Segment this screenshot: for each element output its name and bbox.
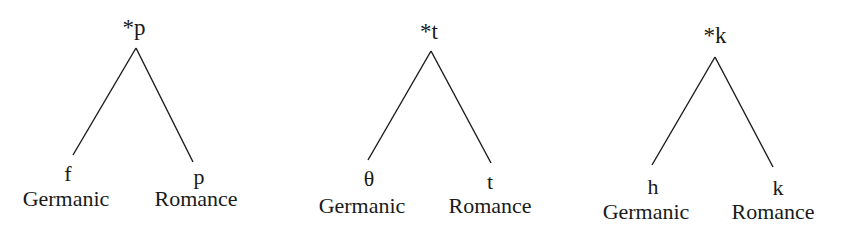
tree-3-right-branch [715, 57, 773, 167]
tree-3-right-language: Romance [731, 201, 814, 223]
tree-3-left-segment: h [648, 176, 659, 198]
tree-3-root-label: *k [704, 24, 727, 47]
tree-1-right-branch [136, 48, 193, 162]
diagram-canvas: *p f p Germanic Romance *t θ t Germanic … [0, 0, 845, 226]
tree-2-left-segment: θ [364, 168, 375, 190]
tree-2-right-branch [431, 51, 491, 163]
tree-1-right-segment: p [194, 166, 205, 188]
tree-2-right-language: Romance [448, 195, 531, 217]
tree-3-right-segment: k [773, 177, 784, 199]
tree-2-left-language: Germanic [319, 195, 406, 217]
tree-1-left-segment: f [64, 163, 71, 185]
tree-2-left-branch [368, 51, 431, 160]
tree-1-left-branch [73, 48, 136, 155]
tree-1-right-language: Romance [154, 188, 237, 210]
tree-3-left-branch [652, 57, 715, 165]
tree-3-left-language: Germanic [603, 201, 690, 223]
tree-1-root-label: *p [123, 16, 146, 39]
tree-2-right-segment: t [487, 171, 493, 193]
tree-2-root-label: *t [420, 20, 438, 43]
tree-1-left-language: Germanic [23, 188, 110, 210]
